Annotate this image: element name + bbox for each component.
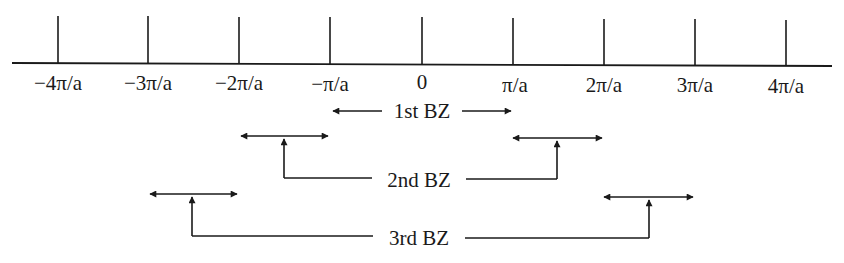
tick-label-pi: π/a (502, 75, 528, 96)
tick-label-4pi: 4π/a (768, 76, 804, 97)
tick-label-zero: 0 (417, 72, 428, 93)
third-bz-label: 3rd BZ (383, 228, 455, 249)
first-bz-label: 1st BZ (388, 101, 457, 122)
second-bz-label: 2nd BZ (381, 170, 457, 191)
brillouin-zone-diagram (0, 0, 844, 263)
tick-label-minus-2pi: −2π/a (215, 73, 263, 94)
tick-label-minus-pi: −π/a (311, 74, 349, 95)
axis-ticks (58, 16, 786, 66)
tick-label-3pi: 3π/a (677, 75, 713, 96)
tick-label-minus-4pi: −4π/a (34, 73, 82, 94)
tick-label-2pi: 2π/a (586, 75, 622, 96)
tick-label-minus-3pi: −3π/a (124, 73, 172, 94)
